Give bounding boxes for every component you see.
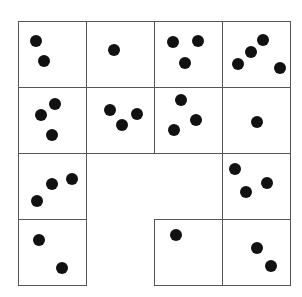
- dot: [31, 195, 43, 207]
- grid-cell-r0-c3: [222, 21, 291, 88]
- dot: [229, 163, 241, 175]
- dot: [257, 34, 269, 46]
- dot: [167, 36, 179, 48]
- dot: [240, 186, 252, 198]
- grid-cell-r3-c0: [18, 219, 87, 286]
- dot: [190, 114, 202, 126]
- dot: [232, 58, 244, 70]
- dot: [261, 177, 273, 189]
- dot: [30, 35, 42, 47]
- grid-cell-r1-c0: [18, 87, 87, 154]
- grid-cell-r0-c1: [86, 21, 155, 88]
- dot: [251, 116, 263, 128]
- dot: [49, 98, 61, 110]
- dot: [274, 62, 286, 74]
- dot: [104, 104, 116, 116]
- dot: [108, 44, 120, 56]
- dot: [66, 173, 78, 185]
- dot: [179, 57, 191, 69]
- dot: [35, 109, 47, 121]
- dot: [46, 129, 58, 141]
- grid-cell-r1-c2: [154, 87, 223, 154]
- dot: [175, 94, 187, 106]
- dot: [131, 108, 143, 120]
- grid-cell-r0-c0: [18, 21, 87, 88]
- dot: [168, 124, 180, 136]
- dot: [56, 262, 68, 274]
- dot: [116, 119, 128, 131]
- dot: [251, 242, 263, 254]
- dot: [46, 178, 58, 190]
- dot: [265, 260, 277, 272]
- dot: [245, 46, 257, 58]
- dot: [38, 55, 50, 67]
- dot: [170, 229, 182, 241]
- dot: [33, 234, 45, 246]
- dot: [192, 35, 204, 47]
- grid-cell-r0-c2: [154, 21, 223, 88]
- grid-cell-r3-c2: [154, 219, 223, 286]
